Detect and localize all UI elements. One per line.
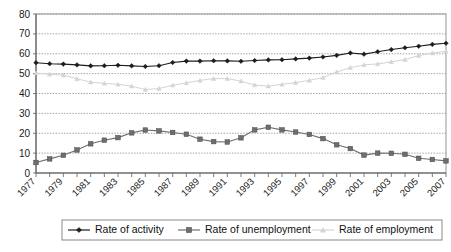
data-point-marker [375,151,380,156]
data-series [34,41,449,69]
x-axis-tick-label: 2007 [425,176,448,199]
data-point-marker [225,59,230,64]
x-axis-tick-label: 1999 [315,176,338,199]
data-point-marker [362,52,367,57]
data-point-marker [157,129,162,134]
data-point-marker [211,139,216,144]
data-point-marker [198,59,203,64]
data-point-marker [321,136,326,141]
data-point-marker [143,128,148,133]
data-point-marker [170,130,175,135]
x-axis-tick-label: 1997 [288,176,311,199]
data-point-marker [116,63,121,68]
data-point-marker [184,59,189,64]
y-axis-labels: 01020304050607080 [19,9,31,179]
data-point-marker [186,227,191,232]
series-layer [34,41,449,165]
data-point-marker [34,60,39,65]
legend-item-label: Rate of employment [339,223,433,235]
x-axis-tick-label: 1983 [97,176,120,199]
data-point-marker [198,137,203,142]
data-point-marker [403,45,408,50]
data-point-marker [34,160,39,165]
data-point-marker [157,63,162,68]
data-point-marker [61,153,66,158]
x-axis-tick-label: 1991 [206,176,229,199]
chart-container: 01020304050607080 1977197919811983198519… [0,0,451,252]
data-point-marker [252,58,257,63]
data-point-marker [211,58,216,63]
y-axis-tick-label: 20 [19,128,31,139]
data-point-marker [389,47,394,52]
x-axis-tick-label: 2005 [397,176,420,199]
y-axis-tick-label: 10 [19,148,31,159]
y-axis-tick-label: 40 [19,88,31,99]
data-point-marker [239,136,244,141]
data-point-marker [61,62,66,67]
x-axis-tick-label: 2001 [343,176,366,199]
data-point-marker [430,42,435,47]
data-point-marker [116,135,121,140]
data-point-marker [280,57,285,62]
data-point-marker [403,152,408,157]
data-point-marker [348,146,353,151]
y-axis-tick-label: 70 [19,28,31,39]
x-axis-tick-label: 1981 [69,176,92,199]
data-point-marker [75,63,80,68]
x-axis-tick-label: 1993 [233,176,256,199]
series-line [36,127,446,162]
data-point-marker [239,59,244,64]
legend-item-label: Rate of activity [95,223,165,235]
x-axis-tick-label: 1987 [151,176,174,199]
y-axis-tick-label: 30 [19,108,31,119]
data-point-marker [334,142,339,147]
data-point-marker [143,64,148,69]
grid-layer [33,14,446,173]
data-point-marker [321,55,326,60]
data-point-marker [389,151,394,156]
data-point-marker [88,141,93,146]
data-point-marker [362,153,367,158]
y-axis-tick-label: 60 [19,48,31,59]
data-point-marker [430,157,435,162]
data-point-marker [88,64,93,69]
data-point-marker [102,138,107,143]
data-point-marker [280,128,285,133]
x-axis-tick-label: 1989 [179,176,202,199]
x-axis-tick-label: 2003 [370,176,393,199]
data-point-marker [75,148,80,153]
y-axis-tick-label: 50 [19,68,31,79]
data-point-marker [444,41,449,46]
line-chart: 01020304050607080 1977197919811983198519… [0,0,451,252]
x-axis-labels: 1977197919811983198519871989199119931995… [15,176,448,199]
data-point-marker [102,63,107,68]
data-point-marker [47,157,52,162]
series-line [36,51,446,89]
x-axis-tick-label: 1977 [15,176,38,199]
data-point-marker [266,125,271,130]
data-point-marker [293,130,298,135]
data-point-marker [252,128,257,133]
data-point-marker [184,132,189,137]
data-point-marker [170,60,175,65]
data-point-marker [293,57,298,62]
data-point-marker [129,131,134,136]
data-point-marker [334,53,339,58]
x-axis-tick-label: 1985 [124,176,147,199]
data-point-marker [47,61,52,66]
data-point-marker [348,51,353,56]
x-axis-tick-label: 1995 [261,176,284,199]
chart-legend: Rate of activityRate of unemploymentRate… [62,220,442,240]
y-axis-tick-label: 80 [19,9,31,20]
legend-item-label: Rate of unemployment [205,223,311,235]
data-point-marker [225,140,230,145]
data-series [34,125,449,165]
data-point-marker [416,156,421,161]
data-point-marker [444,159,449,164]
data-point-marker [307,132,312,137]
data-point-marker [129,64,134,69]
data-point-marker [307,56,312,61]
data-point-marker [416,44,421,49]
x-axis-tick-label: 1979 [42,176,65,199]
data-series [34,49,448,91]
